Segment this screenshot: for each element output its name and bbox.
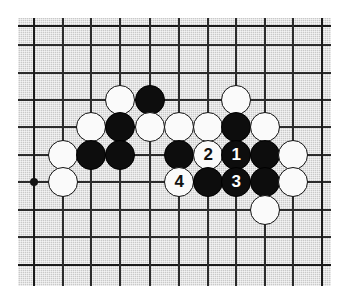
stone-black[interactable] xyxy=(193,167,223,197)
stone-white[interactable] xyxy=(48,140,78,170)
stone-white[interactable] xyxy=(48,167,78,197)
go-board-diagram: 2143 xyxy=(0,0,349,301)
stone-white[interactable] xyxy=(250,195,280,225)
grid-line-horizontal-9 xyxy=(18,264,331,266)
grid-line-vertical-0 xyxy=(33,18,35,286)
move-number-label: 4 xyxy=(175,173,184,190)
move-stone-1[interactable]: 1 xyxy=(221,140,251,170)
stone-white[interactable] xyxy=(105,85,135,115)
star-point-left-icon xyxy=(30,178,38,186)
grid-line-horizontal-8 xyxy=(18,236,331,238)
grid-line-horizontal-3 xyxy=(18,99,331,101)
stone-black[interactable] xyxy=(105,112,135,142)
stone-black[interactable] xyxy=(135,85,165,115)
grid-line-horizontal-7 xyxy=(18,209,331,211)
stone-white[interactable] xyxy=(164,112,194,142)
stone-white[interactable] xyxy=(221,85,251,115)
go-board-surface: 2143 xyxy=(18,18,331,286)
grid-line-vertical-4 xyxy=(149,18,151,286)
move-stone-3[interactable]: 3 xyxy=(221,167,251,197)
move-number-label: 3 xyxy=(232,173,241,190)
stone-white[interactable] xyxy=(76,112,106,142)
stone-white[interactable] xyxy=(250,112,280,142)
stone-black[interactable] xyxy=(76,140,106,170)
move-number-label: 1 xyxy=(232,146,241,163)
stone-white[interactable] xyxy=(135,112,165,142)
move-number-label: 2 xyxy=(204,146,213,163)
stone-black[interactable] xyxy=(105,140,135,170)
stone-black[interactable] xyxy=(250,167,280,197)
stone-black[interactable] xyxy=(221,112,251,142)
stone-white[interactable] xyxy=(193,112,223,142)
stone-white[interactable] xyxy=(278,167,308,197)
grid-line-horizontal-1 xyxy=(18,44,331,46)
move-stone-4[interactable]: 4 xyxy=(164,167,194,197)
stone-white[interactable] xyxy=(278,140,308,170)
grid-line-horizontal-2 xyxy=(18,72,331,74)
grid-line-vertical-10 xyxy=(321,18,323,286)
grid-line-horizontal-0 xyxy=(18,25,331,27)
stone-black[interactable] xyxy=(250,140,280,170)
move-stone-2[interactable]: 2 xyxy=(193,140,223,170)
stone-black[interactable] xyxy=(164,140,194,170)
